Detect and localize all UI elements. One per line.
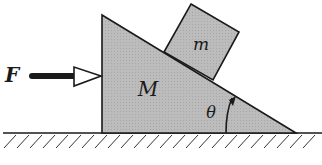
block-mass-label: m bbox=[193, 34, 209, 54]
angle-label: θ bbox=[206, 103, 216, 122]
diagram-canvas: m M θ F bbox=[0, 0, 322, 165]
force-arrow: F bbox=[4, 63, 101, 87]
force-label: F bbox=[4, 63, 21, 87]
ground bbox=[3, 133, 322, 148]
wedge-mass-label: M bbox=[137, 77, 159, 101]
force-arrowhead-icon bbox=[74, 67, 101, 86]
